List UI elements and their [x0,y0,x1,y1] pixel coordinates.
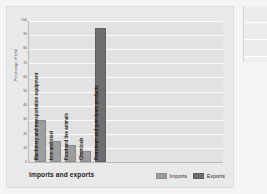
y-tick-label: 30 [15,119,27,122]
side-panel [243,6,267,62]
y-tick-label: 100 [15,19,27,22]
bar-slot: Chemicals [80,21,91,162]
side-panel-row [244,40,267,57]
legend-item[interactable]: Exports [193,173,225,179]
bar-chart: Percentage of total 01020304050607080901… [6,6,234,188]
y-tick-label: 60 [15,76,27,79]
y-tick-label: 20 [15,133,27,136]
y-tick-label: 0 [15,161,27,164]
y-tick-label: 10 [15,147,27,150]
bar-category-label: Chemicals [79,137,84,160]
chart-legend: ImportsExports [156,173,225,179]
side-panel-row [244,6,267,23]
legend-item[interactable]: Imports [156,173,187,179]
bar-slot: Machinery and transportation equipment [35,21,46,162]
legend-swatch [193,173,204,179]
bar-category-label: Iron and steel [49,131,54,160]
plot-area: Machinery and transportation equipmentIr… [28,21,223,163]
y-tick-label: 50 [15,90,27,93]
y-axis-tick-labels: 0102030405060708090100 [15,21,27,163]
bar-category-label: Food and live animals [64,113,69,160]
side-panel-row [244,23,267,40]
y-tick-label: 90 [15,33,27,36]
bar-slot: Iron and steel [50,21,61,162]
legend-label: Exports [207,173,225,179]
y-tick-label: 70 [15,62,27,65]
legend-label: Imports [169,173,187,179]
y-tick-label: 80 [15,48,27,51]
y-tick-label: 40 [15,104,27,107]
bar-category-label: Machinery and transportation equipment [34,73,39,160]
legend-swatch [156,173,167,179]
bar-slot: Petroleum and petroleum products [95,21,106,162]
bar-slot: Food and live animals [65,21,76,162]
chart-title: Imports and exports [29,171,94,178]
screenshot-root: Percentage of total 01020304050607080901… [0,0,267,194]
bar-group: Machinery and transportation equipmentIr… [29,21,223,162]
bar-category-label: Petroleum and petroleum products [94,85,99,160]
